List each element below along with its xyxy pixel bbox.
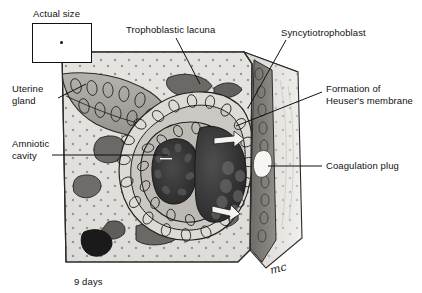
caption-day: 9 days	[74, 276, 103, 288]
amniotic-cavity-pointer	[160, 158, 172, 159]
actual-size-embryo-dot	[60, 41, 63, 44]
label-syncytiotrophoblast: Syncytiotrophoblast	[281, 27, 366, 39]
coagulation-plug-shape	[253, 150, 272, 177]
label-actual-size: Actual size	[33, 8, 80, 20]
label-amniotic-cavity: Amniotic cavity	[12, 138, 49, 161]
label-heusers-membrane: Formation of Heuser's membrane	[326, 83, 413, 106]
label-uterine-gland: Uterine gland	[12, 83, 43, 106]
side-wall-texture	[244, 52, 304, 272]
figure-canvas: Actual size Trophoblastic lacuna Syncyti…	[0, 0, 422, 293]
maternal-blood-lacuna	[81, 230, 112, 257]
label-coagulation-plug: Coagulation plug	[326, 160, 399, 172]
endometrium-block	[58, 50, 304, 272]
label-trophoblastic-lacuna: Trophoblastic lacuna	[126, 24, 215, 36]
